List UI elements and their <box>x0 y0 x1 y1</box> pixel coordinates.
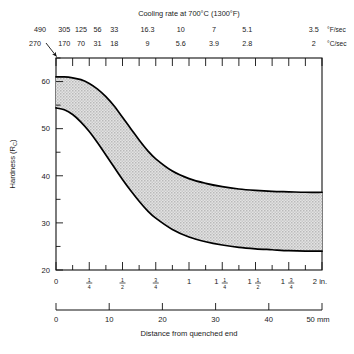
top-label-f: 7 <box>212 25 216 34</box>
x-inch-label: 112 <box>247 277 261 291</box>
x-inch-label: 0 <box>54 277 58 286</box>
x-inch-numerator: 3 <box>290 277 293 283</box>
top-corner-label-fahrenheit: 490 <box>34 25 46 34</box>
y-tick-label: 60 <box>42 77 50 86</box>
x-mm-tick-label: 50 mm <box>306 315 329 324</box>
top-label-c: 3.9 <box>209 39 219 48</box>
x-inch-label: 14 <box>86 277 92 291</box>
top-label-f: 16.3 <box>140 25 154 34</box>
x-axis-mm-ticks <box>56 303 322 310</box>
x-inch-numerator: 1 <box>223 277 226 283</box>
top-unit-celsius: °C/sec <box>327 40 347 47</box>
top-label-c: 5.6 <box>176 39 186 48</box>
top-axis-labels-fahrenheit: 305125563316.31075.13.5 <box>58 25 318 34</box>
x-inch-tick-label: 2 in. <box>313 277 327 286</box>
top-label-f: 305 <box>58 25 70 34</box>
y-axis-title-main: Hardness (R <box>8 145 17 188</box>
top-axis-ticks <box>56 58 322 66</box>
x-inch-denominator: 4 <box>154 284 157 290</box>
top-label-c: 2 <box>312 39 316 48</box>
top-label-c: 2.8 <box>242 39 252 48</box>
top-axis-title: Cooling rate at 700°C (1300°F) <box>138 9 240 18</box>
hardenability-band-fill <box>56 77 322 251</box>
x-mm-tick-label: 30 <box>211 315 219 324</box>
y-tick-label: 50 <box>42 124 50 133</box>
x-inch-whole: 1 <box>281 277 285 286</box>
top-corner-label-celsius: 270 <box>29 39 41 48</box>
x-mm-tick-label: 10 <box>105 315 113 324</box>
y-axis-title: Hardness (RC) <box>8 139 18 189</box>
x-axis-mm-labels: 01020304050 mm <box>54 315 330 324</box>
x-inch-numerator: 1 <box>121 277 124 283</box>
x-inch-label: 34 <box>153 277 159 291</box>
top-label-f: 125 <box>75 25 87 34</box>
top-label-c: 18 <box>110 39 118 48</box>
y-axis-tick-labels: 2030405060 <box>42 77 50 274</box>
top-label-f: 3.5 <box>309 25 319 34</box>
top-label-f: 33 <box>110 25 118 34</box>
x-inch-tick-label: 1 <box>187 277 191 286</box>
x-axis-inch-ticks <box>56 262 322 270</box>
top-label-c: 31 <box>94 39 102 48</box>
x-inch-denominator: 4 <box>290 284 293 290</box>
x-inch-denominator: 2 <box>121 284 124 290</box>
top-label-c: 70 <box>77 39 85 48</box>
x-inch-whole: 1 <box>247 277 251 286</box>
y-tick-label: 40 <box>42 172 50 181</box>
x-inch-numerator: 3 <box>154 277 157 283</box>
x-axis-title: Distance from quenched end <box>140 329 237 338</box>
corner-pointer-arrow-icon <box>46 43 57 57</box>
top-label-f: 56 <box>94 25 102 34</box>
y-axis-title-tail: ) <box>8 139 17 142</box>
x-inch-label: 134 <box>281 277 295 291</box>
x-inch-label: 2 in. <box>313 277 327 286</box>
y-tick-label: 20 <box>42 266 50 275</box>
y-tick-label: 30 <box>42 219 50 228</box>
chart-svg: Cooling rate at 700°C (1300°F) 305125563… <box>0 0 354 354</box>
x-inch-tick-label: 0 <box>54 277 58 286</box>
x-inch-label: 1 <box>187 277 191 286</box>
x-inch-denominator: 4 <box>88 284 91 290</box>
x-mm-tick-label: 20 <box>158 315 166 324</box>
x-inch-label: 12 <box>120 277 126 291</box>
jominy-hardenability-chart: Cooling rate at 700°C (1300°F) 305125563… <box>0 0 354 354</box>
top-label-f: 10 <box>177 25 185 34</box>
top-axis-labels-celsius: 17070311895.63.92.82 <box>58 39 315 48</box>
top-label-c: 170 <box>58 39 70 48</box>
x-inch-denominator: 2 <box>257 284 260 290</box>
x-inch-whole: 1 <box>214 277 218 286</box>
x-mm-tick-label: 40 <box>265 315 273 324</box>
top-label-c: 9 <box>145 39 149 48</box>
top-label-f: 5.1 <box>242 25 252 34</box>
top-unit-fahrenheit: °F/sec <box>327 26 346 33</box>
x-mm-tick-label: 0 <box>54 315 58 324</box>
x-axis-inch-labels: 014123411141121342 in. <box>54 277 327 291</box>
x-inch-numerator: 1 <box>257 277 260 283</box>
x-inch-numerator: 1 <box>88 277 91 283</box>
x-inch-label: 114 <box>214 277 228 291</box>
x-inch-denominator: 4 <box>223 284 226 290</box>
